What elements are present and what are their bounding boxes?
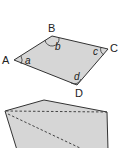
angle-label-c: c [93, 46, 98, 57]
polygon-with-diagonals [5, 100, 108, 148]
vertex-label-a: A [2, 54, 10, 66]
angle-label-b: b [55, 41, 61, 52]
vertex-label-b: B [48, 22, 55, 34]
quadrilateral-abcd: A B C D a b c d [2, 22, 118, 99]
angle-label-a: a [25, 55, 31, 66]
vertex-label-d: D [75, 87, 83, 99]
vertex-label-c: C [110, 42, 118, 54]
angle-label-d: d [74, 71, 80, 82]
geometry-diagram: A B C D a b c d [0, 0, 126, 148]
polygon-shape [5, 100, 108, 148]
